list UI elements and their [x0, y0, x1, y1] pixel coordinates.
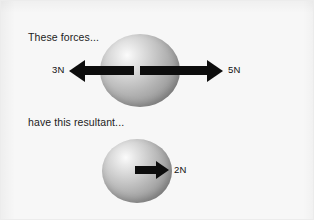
bottom-panel-caption: have this resultant...	[28, 116, 124, 128]
arrow-right-icon	[156, 161, 169, 179]
top-panel-caption: These forces...	[28, 31, 99, 43]
force-arrow-left-shaft	[85, 66, 134, 75]
force-label-3n: 3N	[52, 64, 65, 75]
force-label-5n: 5N	[228, 64, 241, 75]
resultant-arrow-shaft	[135, 166, 156, 174]
arrow-right-icon	[207, 60, 223, 82]
force-arrow-right-shaft	[140, 66, 207, 75]
force-label-2n: 2N	[174, 164, 187, 175]
arrow-left-icon	[69, 60, 85, 82]
force-diagram-figure: These forces... 3N 5N have this resultan…	[0, 0, 314, 220]
